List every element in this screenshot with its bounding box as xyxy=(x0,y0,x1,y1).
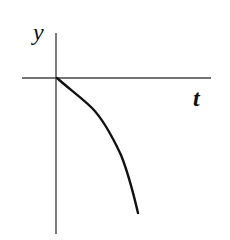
t-axis-label: t xyxy=(193,86,200,110)
function-curve xyxy=(57,78,138,213)
y-axis-label: y xyxy=(33,20,44,44)
